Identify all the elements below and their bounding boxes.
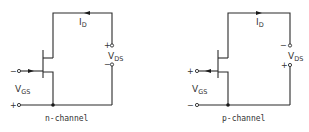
vds-terminal-top [288,44,291,47]
gate-arrow-icon [205,69,211,73]
vds-bottom-sign: − [104,60,111,69]
drain-current-label: ID [256,17,264,29]
vds-terminal-bottom [110,63,113,66]
vds-label: VDS [288,51,303,63]
vds-terminal-top [110,44,113,47]
gate-arrow-icon [28,69,34,73]
caption-n-channel: n-channel [45,114,89,123]
vds-top-sign: + [104,41,111,50]
drain-current-label: ID [79,17,87,29]
current-arrow-icon [256,11,262,15]
source-terminal [195,103,198,106]
vds-top-sign: − [280,41,287,50]
gate-terminal [17,69,20,72]
source-sign: − [187,101,194,110]
source-terminal [17,103,20,106]
current-arrow-icon [84,11,90,15]
source-sign: + [10,101,17,110]
gate-terminal [195,69,198,72]
vds-bottom-sign: + [281,61,288,70]
p-channel-circuit: ID − VDS + + VGS − p-channel [187,11,303,123]
junction-dot [226,103,230,107]
vgs-label: VGS [15,84,30,96]
jfet-bias-diagram: ID + VDS − − VGS + n-channel ID − [0,0,309,132]
n-channel-circuit: ID + VDS − − VGS + n-channel [10,11,123,123]
junction-dot [51,103,55,107]
vgs-label: VGS [192,84,207,96]
gate-sign: − [10,67,17,76]
source-lead [43,72,53,105]
drain-wire [53,13,112,58]
source-lead [218,72,228,105]
gate-sign: + [187,67,194,76]
drain-wire [228,13,290,58]
caption-p-channel: p-channel [222,114,266,123]
vds-terminal-bottom [288,63,291,66]
